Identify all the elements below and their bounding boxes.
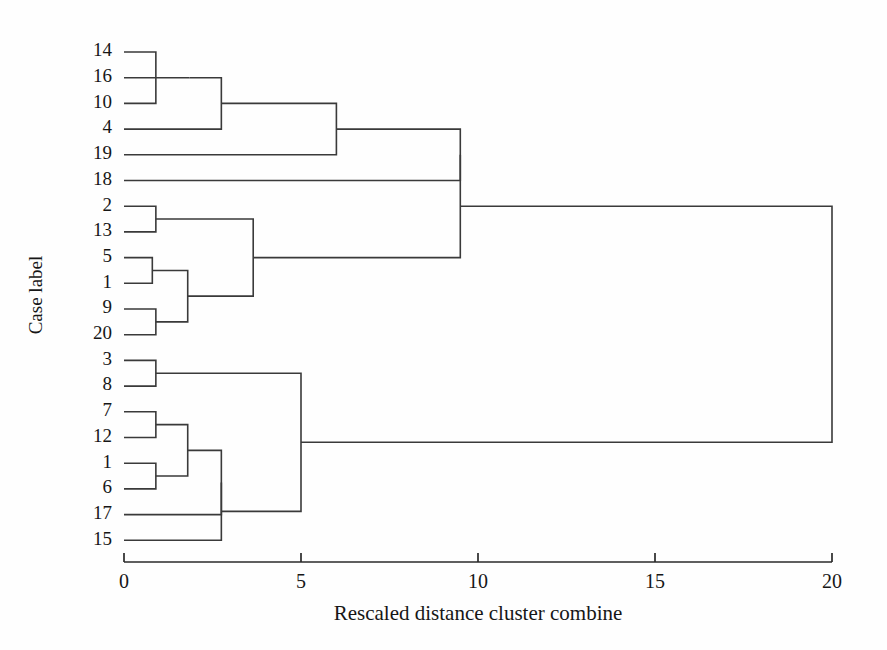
leaf-label: 15 <box>93 528 112 549</box>
dendrogram-link <box>124 482 221 540</box>
dendrogram-link <box>124 360 156 386</box>
dendrogram-link <box>253 155 460 258</box>
leaf-label: 5 <box>103 245 113 266</box>
leaf-label: 2 <box>103 194 113 215</box>
leaf-label: 3 <box>103 348 113 369</box>
x-tick-label: 5 <box>296 570 306 592</box>
leaf-label: 6 <box>103 476 113 497</box>
dendrogram-links-group <box>124 52 832 540</box>
x-tick-label: 20 <box>822 570 842 592</box>
dendrogram-link <box>301 206 832 442</box>
y-axis-title: Case label <box>25 256 46 335</box>
dendrogram-plot: 141610419182135192038712161715 05101520 … <box>0 0 887 650</box>
leaf-label: 4 <box>103 116 113 137</box>
leaf-label: 14 <box>93 39 113 60</box>
dendrogram-link <box>156 219 253 296</box>
leaf-label: 13 <box>93 219 112 240</box>
leaf-label-group: 141610419182135192038712161715 <box>93 39 113 548</box>
leaf-label: 16 <box>93 65 112 86</box>
leaf-label: 1 <box>103 451 113 472</box>
dendrogram-link <box>156 425 188 476</box>
x-tick-label: 15 <box>645 570 665 592</box>
leaf-label: 9 <box>103 296 113 317</box>
x-axis-title: Rescaled distance cluster combine <box>334 601 623 625</box>
dendrogram-link <box>124 309 156 335</box>
leaf-label: 18 <box>93 168 112 189</box>
leaf-label: 17 <box>93 502 112 523</box>
x-tick-label: 10 <box>468 570 488 592</box>
leaf-label: 19 <box>93 142 112 163</box>
leaf-label: 8 <box>103 373 113 394</box>
leaf-label: 20 <box>93 322 112 343</box>
x-tick-label: 0 <box>119 570 129 592</box>
x-tick-label-group: 05101520 <box>119 570 842 592</box>
dendrogram-link <box>152 270 187 321</box>
leaf-label: 1 <box>103 271 113 292</box>
dendrogram-link <box>124 450 221 514</box>
dendrogram-figure: 141610419182135192038712161715 05101520 … <box>0 0 887 650</box>
dendrogram-link <box>124 463 156 489</box>
dendrogram-link <box>124 258 152 284</box>
dendrogram-link <box>156 373 301 511</box>
leaf-label: 10 <box>93 91 112 112</box>
leaf-label: 12 <box>93 425 112 446</box>
dendrogram-link <box>124 412 156 438</box>
dendrogram-link <box>124 206 156 232</box>
leaf-label: 7 <box>103 399 113 420</box>
x-axis-group <box>124 553 832 562</box>
